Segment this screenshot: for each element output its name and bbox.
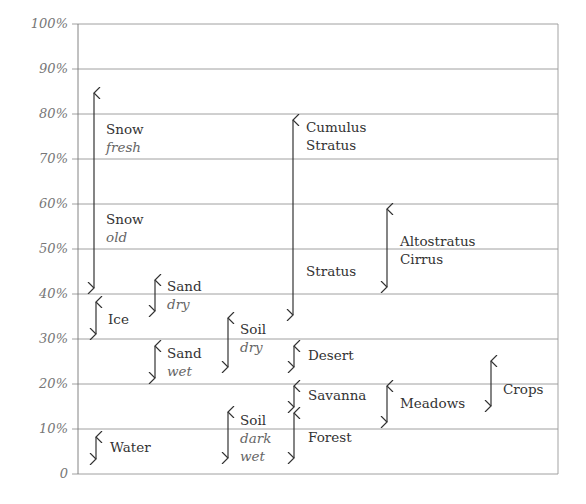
label-water: Water <box>110 439 151 455</box>
tick-40: 40% <box>38 286 68 301</box>
label-stratus-2: Stratus <box>306 263 356 279</box>
tick-50: 50% <box>39 241 68 256</box>
label-savanna: Savanna <box>308 387 366 403</box>
label-altostratus: Altostratus <box>399 233 476 249</box>
label-snow-2: Snow <box>106 211 144 227</box>
label-snow-old: old <box>106 229 127 245</box>
gridlines <box>72 24 558 474</box>
range-labels: Snow fresh Snow old Ice Water Sand dry S… <box>105 119 544 464</box>
tick-90: 90% <box>39 61 68 76</box>
label-cirrus: Cirrus <box>400 251 443 267</box>
label-crops: Crops <box>503 381 544 397</box>
tick-100: 100% <box>31 16 68 31</box>
label-soil-dry-sub: dry <box>240 339 263 355</box>
albedo-range-chart: 100% 90% 80% 70% 60% 50% 40% 30% 20% 10%… <box>0 0 586 504</box>
label-cumulus: Cumulus <box>306 119 367 135</box>
label-sand-wet-sub: wet <box>167 363 193 379</box>
label-stratus-1: Stratus <box>306 137 356 153</box>
label-sand-wet: Sand <box>167 345 202 361</box>
tick-60: 60% <box>39 196 68 211</box>
tick-10: 10% <box>39 421 68 436</box>
tick-30: 30% <box>39 331 68 346</box>
label-desert: Desert <box>308 347 354 363</box>
label-snow: Snow <box>106 121 144 137</box>
tick-80: 80% <box>39 106 68 121</box>
label-forest: Forest <box>308 429 352 445</box>
tick-70: 70% <box>39 151 68 166</box>
y-tick-labels: 100% 90% 80% 70% 60% 50% 40% 30% 20% 10%… <box>31 16 68 481</box>
label-soil-dark: Soil <box>240 412 266 428</box>
label-soil-dry: Soil <box>240 321 266 337</box>
label-ice: Ice <box>108 311 129 327</box>
label-snow-fresh: fresh <box>105 139 141 155</box>
label-soil-wet-sub: wet <box>240 448 266 464</box>
label-soil-dark-sub: dark <box>240 430 271 446</box>
tick-20: 20% <box>38 376 68 391</box>
tick-0: 0 <box>60 466 68 481</box>
label-sand-dry: Sand <box>167 278 202 294</box>
label-sand-dry-sub: dry <box>167 296 190 312</box>
label-meadows: Meadows <box>400 395 465 411</box>
